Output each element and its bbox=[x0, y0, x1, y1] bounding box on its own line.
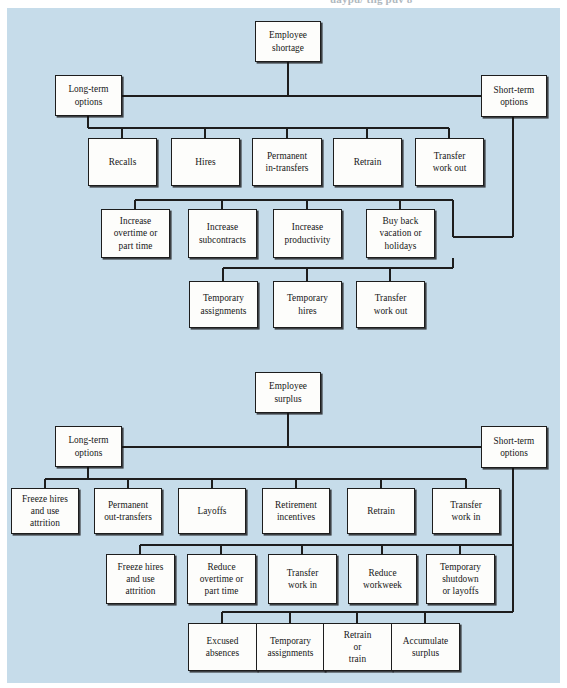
node-label: Temporary shutdown or layoffs bbox=[440, 561, 481, 598]
diagram-page: uaypu/ tiig puv 8 bbox=[0, 0, 567, 688]
node-label: Excused absences bbox=[206, 635, 239, 660]
node-shortage-retrain[interactable]: Retrain bbox=[333, 138, 402, 186]
node-label: Permanent out-transfers bbox=[104, 499, 152, 524]
node-shortage-increase-productivity[interactable]: Increase productivity bbox=[273, 209, 342, 258]
cut-off-header-text: uaypu/ tiig puv 8 bbox=[330, 0, 567, 5]
node-label: Retrain or train bbox=[344, 629, 372, 666]
node-surplus-permanent-out-transfers[interactable]: Permanent out-transfers bbox=[94, 488, 162, 534]
node-label: Permanent in-transfers bbox=[266, 150, 309, 175]
node-label: Increase productivity bbox=[284, 221, 330, 246]
node-label: Increase subcontracts bbox=[199, 221, 246, 246]
node-shortage-short-term-options[interactable]: Short-term options bbox=[481, 75, 547, 117]
node-surplus-accumulate-surplus[interactable]: Accumulate surplus bbox=[391, 623, 460, 671]
node-shortage-temporary-assignments[interactable]: Temporary assignments bbox=[189, 281, 258, 328]
node-surplus-long-term-options[interactable]: Long-term options bbox=[55, 426, 122, 467]
node-surplus-short-term-options[interactable]: Short-term options bbox=[481, 426, 547, 468]
node-shortage-temporary-hires[interactable]: Temporary hires bbox=[273, 281, 342, 328]
node-surplus-temporary-assignments[interactable]: Temporary assignments bbox=[256, 623, 325, 671]
node-shortage-hires[interactable]: Hires bbox=[171, 138, 240, 186]
node-label: Accumulate surplus bbox=[403, 635, 448, 660]
node-shortage-long-term-options[interactable]: Long-term options bbox=[55, 75, 122, 116]
node-shortage-transfer-work-out[interactable]: Transfer work out bbox=[415, 138, 484, 186]
node-label: Buy back vacation or holidays bbox=[379, 215, 421, 252]
node-surplus-layoffs[interactable]: Layoffs bbox=[178, 488, 246, 534]
node-label: Hires bbox=[195, 156, 215, 168]
node-surplus-reduce-overtime-or-part-time[interactable]: Reduce overtime or part time bbox=[187, 554, 256, 604]
node-label: Freeze hires and use attrition bbox=[118, 561, 164, 598]
node-surplus-root[interactable]: Employee surplus bbox=[255, 372, 321, 413]
node-shortage-root[interactable]: Employee shortage bbox=[255, 21, 321, 62]
node-label: Long-term options bbox=[68, 83, 108, 108]
node-label: Recalls bbox=[109, 156, 137, 168]
node-label: Layoffs bbox=[197, 505, 226, 517]
node-label: Reduce workweek bbox=[363, 567, 402, 592]
node-label: Transfer work out bbox=[374, 292, 408, 317]
node-label: Reduce overtime or part time bbox=[200, 561, 244, 598]
node-label: Transfer work in bbox=[450, 499, 482, 524]
node-label: Short-term options bbox=[494, 435, 535, 460]
node-surplus-transfer-work-in[interactable]: Transfer work in bbox=[432, 488, 500, 534]
node-surplus-temporary-shutdown-or-layoffs[interactable]: Temporary shutdown or layoffs bbox=[426, 554, 495, 604]
node-label: Increase overtime or part time bbox=[114, 215, 158, 252]
node-label: Transfer work out bbox=[433, 150, 467, 175]
node-surplus-excused-absences[interactable]: Excused absences bbox=[188, 623, 257, 671]
node-surplus-freeze-hires-and-use-attrition-2[interactable]: Freeze hires and use attrition bbox=[106, 554, 175, 604]
node-shortage-increase-subcontracts[interactable]: Increase subcontracts bbox=[188, 209, 257, 258]
node-shortage-recalls[interactable]: Recalls bbox=[88, 138, 157, 186]
node-label: Temporary assignments bbox=[268, 635, 314, 660]
node-label: Employee surplus bbox=[269, 380, 307, 405]
node-label: Employee shortage bbox=[269, 29, 307, 54]
node-label: Retirement incentives bbox=[275, 499, 317, 524]
node-label: Retrain bbox=[354, 156, 382, 168]
node-surplus-retrain-or-train[interactable]: Retrain or train bbox=[323, 623, 392, 671]
node-shortage-buy-back-vacation-or-holidays[interactable]: Buy back vacation or holidays bbox=[366, 209, 435, 258]
node-label: Short-term options bbox=[494, 84, 535, 109]
node-label: Freeze hires and use attrition bbox=[22, 493, 68, 530]
node-label: Retrain bbox=[367, 505, 395, 517]
node-label: Temporary assignments bbox=[201, 292, 247, 317]
node-label: Long-term options bbox=[68, 434, 108, 459]
node-label: Transfer work in bbox=[287, 567, 319, 592]
node-surplus-retirement-incentives[interactable]: Retirement incentives bbox=[262, 488, 330, 534]
node-surplus-reduce-workweek[interactable]: Reduce workweek bbox=[348, 554, 417, 604]
node-surplus-retrain[interactable]: Retrain bbox=[347, 488, 415, 534]
node-shortage-increase-overtime-or-part-time[interactable]: Increase overtime or part time bbox=[101, 209, 170, 258]
node-label: Temporary hires bbox=[287, 292, 328, 317]
node-shortage-transfer-work-out-2[interactable]: Transfer work out bbox=[356, 281, 425, 328]
node-surplus-freeze-hires-and-use-attrition[interactable]: Freeze hires and use attrition bbox=[11, 488, 79, 534]
node-surplus-transfer-work-in-2[interactable]: Transfer work in bbox=[268, 554, 337, 604]
node-shortage-permanent-in-transfers[interactable]: Permanent in-transfers bbox=[252, 138, 322, 186]
